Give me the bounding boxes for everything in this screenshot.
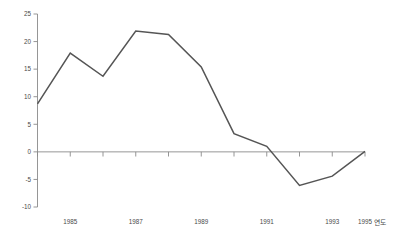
x-axis-name-label: 연도 [374,219,386,227]
x-tick-marks [38,152,366,157]
clipped-header-text [278,0,390,3]
chart-canvas: 25 20 15 10 5 0 -5 -10 1985 [0,0,393,244]
y-tick-label: 0 [27,148,31,155]
y-tick-label: 20 [24,38,32,45]
x-tick-label: 1989 [194,218,209,225]
line-chart: 25 20 15 10 5 0 -5 -10 1985 [0,0,393,244]
y-tick-label: 10 [24,93,32,100]
x-tick-label: 1993 [325,218,340,225]
x-tick-label: 1995 [358,218,373,225]
y-tick-label: 25 [24,10,32,17]
x-tick-labels: 1985 1987 1989 1991 1993 1995 [63,218,372,225]
x-tick-label: 1985 [63,218,78,225]
x-tick-label: 1991 [260,218,275,225]
x-tick-label: 1987 [129,218,144,225]
y-tick-label: 5 [27,121,31,128]
y-tick-label: -5 [25,176,31,183]
y-tick-label: 15 [24,65,32,72]
y-tick-marks [34,14,38,207]
data-series-line [38,31,366,185]
y-tick-label: -10 [22,203,32,210]
y-tick-labels: 25 20 15 10 5 0 -5 -10 [22,10,32,210]
